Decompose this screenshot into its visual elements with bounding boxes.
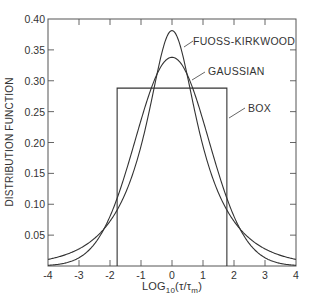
- box-label: BOX: [248, 102, 271, 114]
- y-tick-label: 0.05: [25, 229, 46, 241]
- y-tick-label: 0.20: [25, 137, 46, 149]
- x-tick-label: 3: [262, 269, 268, 281]
- box-leader: [229, 108, 245, 118]
- y-tick-label: 0.40: [25, 13, 46, 25]
- y-tick-label: 0.25: [25, 106, 46, 118]
- gaussian-leader: [192, 72, 205, 80]
- y-tick-label: 0.35: [25, 44, 46, 56]
- x-axis-ticks: -4-3-2-101234: [43, 19, 299, 281]
- plot-frame: [48, 19, 296, 266]
- gaussian-label: GAUSSIAN: [208, 65, 265, 77]
- x-tick-label: -4: [43, 269, 52, 281]
- fuoss-kirkwood-label: FUOSS-KIRKWOOD: [193, 35, 295, 47]
- y-tick-label: 0.10: [25, 198, 46, 210]
- y-tick-label: 0.30: [25, 75, 46, 87]
- distribution-function-chart: -4-3-2-101234 0.050.100.150.200.250.300.…: [0, 0, 311, 303]
- box-curve: [117, 88, 227, 266]
- y-axis-title: DISTRIBUTION FUNCTION: [4, 77, 15, 206]
- x-tick-label: 2: [231, 269, 237, 281]
- x-tick-label: -2: [105, 269, 114, 281]
- x-tick-label: 4: [293, 269, 299, 281]
- annotations: FUOSS-KIRKWOOD GAUSSIAN BOX: [184, 35, 295, 118]
- y-axis-ticks: 0.050.100.150.200.250.300.350.40: [25, 13, 296, 241]
- y-tick-label: 0.15: [25, 167, 46, 179]
- x-tick-label: -3: [74, 269, 83, 281]
- x-axis-title: LOG10(τ/τm): [142, 280, 202, 295]
- fuoss-kirkwood-leader: [184, 41, 193, 47]
